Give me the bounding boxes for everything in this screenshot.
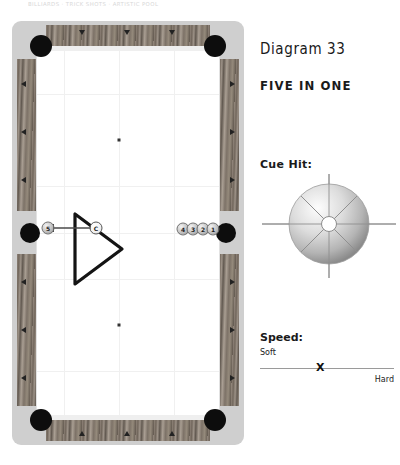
cue-hit-diagram	[258, 172, 400, 280]
diagram-number: Diagram 33	[260, 40, 345, 58]
ball-cue: C	[90, 222, 103, 235]
diagram-title: FIVE IN ONE	[260, 78, 351, 93]
speed-scale	[260, 368, 394, 369]
speed-hard-label: Hard	[375, 375, 394, 384]
cue-hit-marker	[322, 217, 337, 232]
cue-hit-label: Cue Hit:	[260, 158, 312, 171]
ball-1: 1	[207, 223, 220, 236]
pool-table: 5 C 4 3 2 1	[12, 21, 244, 445]
speed-label: Speed:	[260, 331, 303, 344]
speed-soft-label: Soft	[260, 348, 276, 357]
ball-5: 5	[42, 222, 55, 235]
info-panel: Diagram 33 FIVE IN ONE Cue Hit: Speed: S…	[258, 0, 400, 465]
page-header: BILLIARDS · TRICK SHOTS · ARTISTIC POOL	[28, 1, 288, 10]
speed-marker: X	[316, 361, 324, 374]
